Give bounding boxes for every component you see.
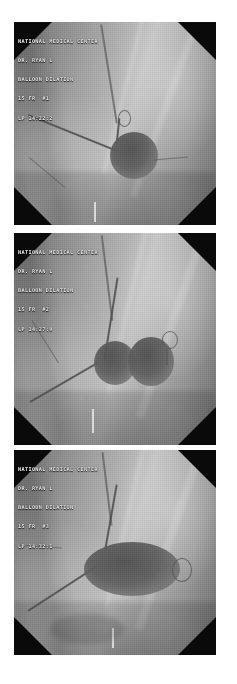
diaphragm-shadow-1 xyxy=(14,172,216,225)
overlay-line-timestamp-3: LP 14:32:1 xyxy=(18,543,98,549)
overlay-line-timestamp-1: LP 14:22:2 xyxy=(18,115,98,121)
overlay-text-block-2: NATIONAL MEDICAL CENTER DR. RYAN L BALLO… xyxy=(18,236,98,345)
overlay-line-procedure-2: BALLOON DILATION xyxy=(18,287,98,293)
overlay-line-timestamp-2: LP 14:27:0 xyxy=(18,326,98,332)
radiopaque-marker-2 xyxy=(92,409,94,433)
overlay-line-physician-1: DR. RYAN L xyxy=(18,57,98,63)
fluoroscopy-panel-1[interactable]: NATIONAL MEDICAL CENTER DR. RYAN L BALLO… xyxy=(14,22,216,225)
overlay-line-physician-3: DR. RYAN L xyxy=(18,485,98,491)
diaphragm-shadow-2 xyxy=(14,391,216,445)
radiopaque-marker-1 xyxy=(94,202,96,222)
marker-band-2 xyxy=(166,349,168,365)
catheter-pigtail-loop-3 xyxy=(172,558,192,582)
balloon-mass-1 xyxy=(110,132,158,179)
overlay-line-device-1: 15 FR #1 xyxy=(18,95,98,101)
overlay-line-procedure-1: BALLOON DILATION xyxy=(18,76,98,82)
image-series-page: NATIONAL MEDICAL CENTER DR. RYAN L BALLO… xyxy=(0,0,237,684)
catheter-loop-2 xyxy=(162,331,178,349)
fluoroscopy-panel-3[interactable]: NATIONAL MEDICAL CENTER DR. RYAN L BALLO… xyxy=(14,450,216,655)
overlay-text-block-1: NATIONAL MEDICAL CENTER DR. RYAN L BALLO… xyxy=(18,25,98,134)
catheter-loop-1 xyxy=(118,110,131,127)
overlay-line-facility-2: NATIONAL MEDICAL CENTER xyxy=(18,249,98,255)
overlay-line-device-2: 15 FR #2 xyxy=(18,306,98,312)
bowel-gas-shadow-3 xyxy=(50,614,124,644)
overlay-line-physician-2: DR. RYAN L xyxy=(18,268,98,274)
overlay-line-procedure-3: BALLOON DILATION xyxy=(18,504,98,510)
balloon-mass-3 xyxy=(84,542,180,596)
overlay-line-facility-3: NATIONAL MEDICAL CENTER xyxy=(18,466,98,472)
fluoroscopy-panel-2[interactable]: NATIONAL MEDICAL CENTER DR. RYAN L BALLO… xyxy=(14,233,216,445)
overlay-line-facility-1: NATIONAL MEDICAL CENTER xyxy=(18,38,98,44)
overlay-text-block-3: NATIONAL MEDICAL CENTER DR. RYAN L BALLO… xyxy=(18,453,98,562)
overlay-line-device-3: 15 FR #3 xyxy=(18,523,98,529)
